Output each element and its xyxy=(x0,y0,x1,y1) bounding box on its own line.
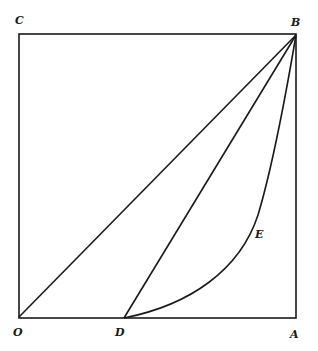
label-c: C xyxy=(15,14,24,27)
line-ob xyxy=(19,35,296,317)
label-e: E xyxy=(254,228,264,241)
label-a: A xyxy=(289,328,299,341)
diagram-canvas: C B O D A E xyxy=(0,0,318,351)
label-b: B xyxy=(290,16,300,29)
label-d: D xyxy=(114,326,125,339)
label-o: O xyxy=(13,326,23,339)
line-db xyxy=(124,35,296,318)
